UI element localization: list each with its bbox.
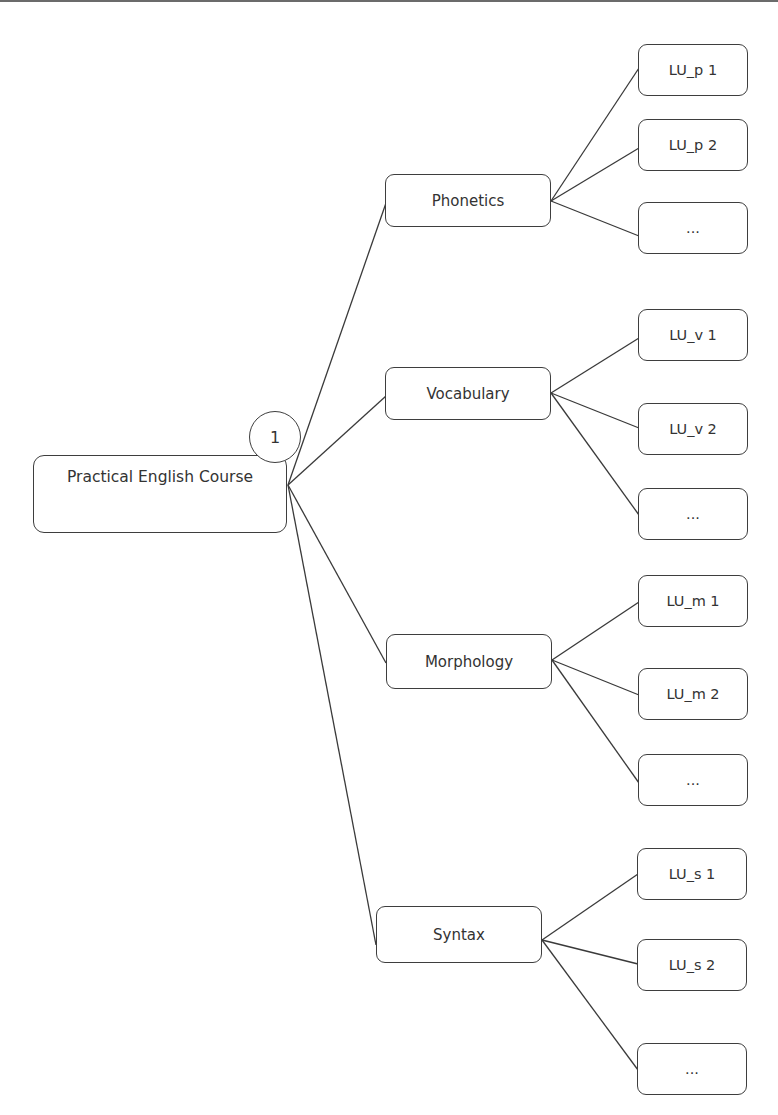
leaf-label: LU_v 1: [669, 327, 717, 343]
leaf-label: LU_s 1: [669, 866, 716, 882]
branch-node-syntax[interactable]: Syntax: [376, 906, 542, 963]
root-node[interactable]: Practical English Course: [33, 455, 287, 533]
leaf-node-lu-m-1[interactable]: LU_m 1: [638, 575, 748, 627]
root-label: Practical English Course: [67, 468, 253, 486]
leaf-node-v-more[interactable]: ...: [638, 488, 748, 540]
branch-label: Syntax: [433, 926, 485, 944]
leaf-node-lu-p-2[interactable]: LU_p 2: [638, 119, 748, 171]
branch-node-morphology[interactable]: Morphology: [386, 634, 552, 689]
leaf-label: LU_p 2: [669, 137, 717, 153]
step-number-badge: 1: [249, 411, 301, 463]
leaf-node-lu-s-2[interactable]: LU_s 2: [637, 939, 747, 991]
branch-label: Morphology: [425, 653, 513, 671]
leaf-node-lu-m-2[interactable]: LU_m 2: [638, 668, 748, 720]
leaf-node-s-more[interactable]: ...: [637, 1043, 747, 1095]
edge-root-morphology: [288, 485, 386, 663]
leaf-label: ...: [686, 506, 700, 522]
branch-node-phonetics[interactable]: Phonetics: [385, 174, 551, 227]
leaf-node-lu-v-1[interactable]: LU_v 1: [638, 309, 748, 361]
leaf-label: LU_m 2: [666, 686, 719, 702]
edge-root-phonetics: [288, 203, 386, 485]
leaf-node-m-more[interactable]: ...: [638, 754, 748, 806]
branch-label: Phonetics: [432, 192, 505, 210]
leaf-node-lu-p-1[interactable]: LU_p 1: [638, 44, 748, 96]
edge-root-syntax: [288, 485, 376, 945]
leaf-label: LU_s 2: [669, 957, 716, 973]
leaf-label: LU_v 2: [669, 421, 717, 437]
leaf-label: LU_m 1: [666, 593, 719, 609]
branch-node-vocabulary[interactable]: Vocabulary: [385, 367, 551, 420]
leaf-label: ...: [686, 220, 700, 236]
leaf-label: ...: [685, 1061, 699, 1077]
badge-label: 1: [270, 428, 280, 447]
branch-label: Vocabulary: [426, 385, 509, 403]
leaf-label: LU_p 1: [669, 62, 717, 78]
leaf-node-lu-s-1[interactable]: LU_s 1: [637, 848, 747, 900]
leaf-node-lu-v-2[interactable]: LU_v 2: [638, 403, 748, 455]
leaf-label: ...: [686, 772, 700, 788]
leaf-node-p-more[interactable]: ...: [638, 202, 748, 254]
edge-root-vocabulary: [288, 396, 386, 485]
